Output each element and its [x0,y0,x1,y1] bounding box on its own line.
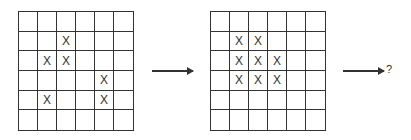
grid-cell [268,12,287,32]
grid-cell [211,71,230,91]
grid-cell: X [268,51,287,71]
grid-cell [114,91,133,111]
grid-cell [306,32,325,52]
grid-cell: X [95,91,114,111]
grid-cell [287,91,306,111]
grid-cell [57,91,76,111]
grid-cell: X [249,51,268,71]
grid-cell: X [38,91,57,111]
grid-cell [38,32,57,52]
grid-cell [211,51,230,71]
grid-cell [306,51,325,71]
grid-cell [287,32,306,52]
grid-cell: X [249,71,268,91]
grid-cell [95,110,114,130]
grid-cell [76,110,95,130]
grid-cell [287,51,306,71]
arrow-1 [152,70,193,72]
grid-cell [114,32,133,52]
grid-cell [76,91,95,111]
grid-cell [211,12,230,32]
grid-cell [114,12,133,32]
grid-cell [76,32,95,52]
grid-cell [95,32,114,52]
grid-cell [114,71,133,91]
grid-cell: X [38,51,57,71]
grid-cell: X [249,32,268,52]
grid-cell [306,12,325,32]
grid-cell [38,12,57,32]
grid-cell [114,51,133,71]
grid-cell [38,71,57,91]
grid-cell [268,91,287,111]
grid-cell: X [268,71,287,91]
grid-cell [76,71,95,91]
grid-cell [19,91,38,111]
grid-cell [268,32,287,52]
grid-cell [211,110,230,130]
grid-cell [19,110,38,130]
grid-cell [95,51,114,71]
grid-cell: X [57,51,76,71]
grid-cell [306,71,325,91]
grid-cell [114,110,133,130]
grid-cell [19,51,38,71]
grid-cell: X [57,32,76,52]
grid-cell [249,91,268,111]
grid-cell [306,91,325,111]
grid-cell [230,91,249,111]
grid-cell [38,110,57,130]
grid-cell [249,12,268,32]
grid-cell: X [230,32,249,52]
grid-cell [19,71,38,91]
grid-1: XXXXXX [18,11,134,131]
grid-cell [306,110,325,130]
grid-cell [287,71,306,91]
arrow-2 [343,70,384,72]
grid-cell [287,12,306,32]
grid-cell [76,51,95,71]
grid-cell: X [230,71,249,91]
grid-cell [57,110,76,130]
grid-cell: X [95,71,114,91]
grid-cell [249,110,268,130]
grid-cell [76,12,95,32]
grid-cell [19,12,38,32]
grid-cell [19,32,38,52]
grid-cell [57,12,76,32]
grid-cell [268,110,287,130]
grid-2: XXXXXXXX [210,11,326,131]
grid-cell [95,12,114,32]
grid-cell [57,71,76,91]
grid-cell [287,110,306,130]
grid-cell [211,91,230,111]
question-mark-label: ? [386,63,392,75]
grid-cell [230,12,249,32]
grid-cell [230,110,249,130]
grid-cell [211,32,230,52]
grid-cell: X [230,51,249,71]
